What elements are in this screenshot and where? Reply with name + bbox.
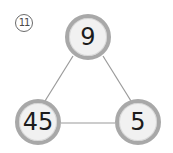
edge-top-bottom-right [103,56,131,101]
edge-top-bottom-left [45,56,73,101]
triangle-diagram: 11 9 45 5 [0,0,173,153]
problem-number-badge: 11 [15,14,33,32]
node-bottom-left-value: 45 [23,110,54,134]
node-bottom-left: 45 [15,99,61,145]
node-bottom-right: 5 [115,99,161,145]
node-bottom-right-value: 5 [130,110,145,134]
node-top-value: 9 [80,25,95,49]
node-top: 9 [65,14,111,60]
problem-number-label: 11 [19,17,30,28]
